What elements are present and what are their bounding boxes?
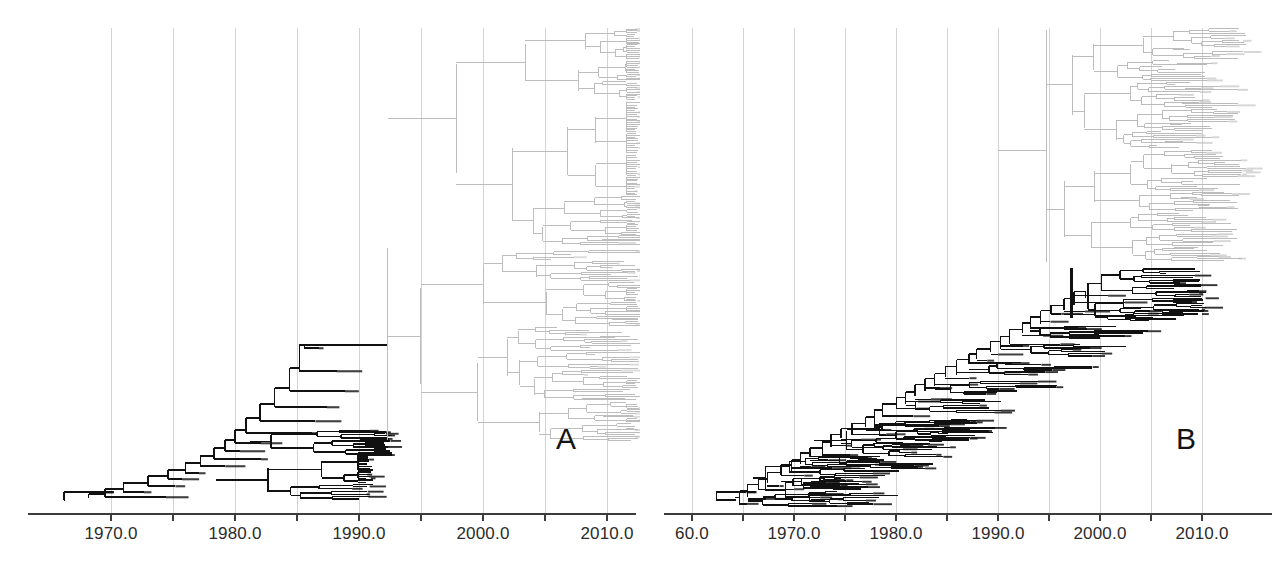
- panel-b-letter: B: [1176, 424, 1196, 454]
- tip-label-smear: [931, 398, 952, 400]
- tip-label-smear: [1041, 364, 1050, 366]
- tip-label-smear: [1206, 297, 1219, 299]
- tip-label-smear: [918, 466, 923, 468]
- tip-label-smear: [950, 446, 956, 448]
- tip-label-smear: [1060, 343, 1074, 345]
- figure-root: A 1970.01980.01990.02000.02010.0 B 60.01…: [0, 0, 1276, 583]
- tip-label-smear: [875, 464, 892, 466]
- tip-label-smear: [1125, 301, 1147, 303]
- tip-label-smear: [1202, 99, 1210, 101]
- panel-a: A 1970.01980.01990.02000.02010.0: [0, 0, 640, 583]
- axis-tick-label-2000: 2000.0: [1073, 524, 1126, 544]
- panel-a-letter: A: [556, 424, 576, 454]
- tip-label-smear: [352, 488, 363, 490]
- tip-label-smear: [995, 412, 1012, 414]
- tip-label-smear: [1102, 353, 1112, 355]
- tip-label-smear: [598, 366, 606, 368]
- tip-label-smear: [635, 324, 639, 326]
- tip-label-smear: [973, 421, 983, 423]
- tip-label-smear: [581, 334, 587, 336]
- tip-label-smear: [1242, 170, 1252, 172]
- tip-label-smear: [1238, 258, 1246, 260]
- tip-label-smear: [1221, 85, 1240, 87]
- axis-tick-label-1990: 1990.0: [971, 524, 1024, 544]
- axis-tick-label-1980: 1980.0: [869, 524, 922, 544]
- tip-label-smear: [1211, 236, 1228, 238]
- tip-label-smear: [1207, 77, 1216, 79]
- tip-label-smear: [630, 364, 639, 366]
- caption-strip: [0, 565, 1276, 583]
- tip-label-smear: [261, 458, 268, 460]
- tip-label-smear: [1202, 313, 1209, 315]
- tip-label-smear: [1189, 294, 1203, 296]
- tip-label-smear: [1207, 80, 1223, 82]
- x-axis: [28, 514, 636, 521]
- tip-label-smear: [977, 420, 994, 422]
- tip-label-smear: [943, 456, 952, 458]
- tip-label-smear: [998, 353, 1023, 355]
- tip-label-smear: [873, 503, 892, 505]
- tip-label-smear: [812, 503, 826, 505]
- tip-label-smear: [804, 475, 813, 477]
- tip-label-smear: [622, 370, 640, 372]
- panel-b: B 60.01970.01980.01990.02000.02010.0: [640, 0, 1276, 583]
- tip-label-smear: [1196, 135, 1206, 137]
- tip-label-smear: [368, 491, 384, 493]
- tip-label-smear: [102, 491, 114, 493]
- tip-label-smear: [371, 477, 376, 479]
- tip-label-smear: [1219, 256, 1231, 258]
- tip-label-smear: [1242, 173, 1246, 175]
- tip-label-smear: [225, 465, 245, 467]
- tip-label-smear: [390, 440, 401, 442]
- tip-label-smear: [1056, 386, 1063, 388]
- tip-label-smear: [1212, 136, 1219, 138]
- tip-label-smear: [345, 390, 359, 392]
- tip-label-smear: [610, 267, 613, 269]
- tip-label-smear: [617, 263, 620, 265]
- tip-label-smear: [837, 479, 845, 481]
- tip-label-smear: [367, 493, 370, 495]
- tip-label-smear: [979, 405, 987, 407]
- tip-label-smear: [1090, 347, 1102, 349]
- tip-label-smear: [367, 474, 372, 476]
- tip-label-smear: [1202, 310, 1208, 312]
- x-axis: [664, 514, 1272, 521]
- tip-label-smear: [1093, 366, 1099, 368]
- tip-label-smear: [634, 190, 637, 192]
- tip-label-smear: [630, 279, 640, 281]
- tip-label-smear: [866, 500, 876, 502]
- tip-label-smear: [1227, 111, 1240, 113]
- tip-label-smear: [859, 477, 878, 479]
- tip-label-smear: [989, 430, 992, 432]
- tip-label-smear: [880, 461, 896, 463]
- tip-label-smear: [1199, 101, 1211, 103]
- tip-label-smear: [1237, 104, 1256, 106]
- tip-label-smear: [1226, 45, 1239, 47]
- tip-label-smear: [747, 503, 759, 505]
- tip-label-smear: [1194, 227, 1206, 229]
- panel-a-tree-plot: [0, 0, 640, 583]
- tip-label-smear: [1206, 152, 1222, 154]
- tip-label-smear: [1189, 198, 1203, 200]
- tip-label-smear: [862, 481, 871, 483]
- axis-tick-label-1970: 1970.0: [84, 524, 137, 544]
- tip-label-smear: [936, 454, 941, 456]
- tip-label-smear: [1180, 139, 1194, 141]
- tip-label-smear: [1246, 168, 1262, 170]
- tip-label-smear: [384, 438, 392, 440]
- tip-label-smear: [387, 435, 395, 437]
- tip-label-smear: [1225, 37, 1234, 39]
- tip-label-smear: [1038, 381, 1056, 383]
- tip-label-smear: [794, 488, 804, 490]
- tip-label-smear: [1213, 219, 1226, 221]
- tip-label-smear: [873, 473, 890, 475]
- tip-label-smear: [826, 481, 840, 483]
- tip-label-smear: [1244, 51, 1261, 53]
- tip-label-smear: [873, 492, 884, 494]
- tip-label-smear: [910, 444, 923, 446]
- tip-label-smear: [1050, 321, 1068, 323]
- tip-label-smear: [1092, 355, 1105, 357]
- tip-label-smear: [866, 483, 878, 485]
- tip-label-smear: [1192, 301, 1197, 303]
- tip-label-smear: [1180, 282, 1186, 284]
